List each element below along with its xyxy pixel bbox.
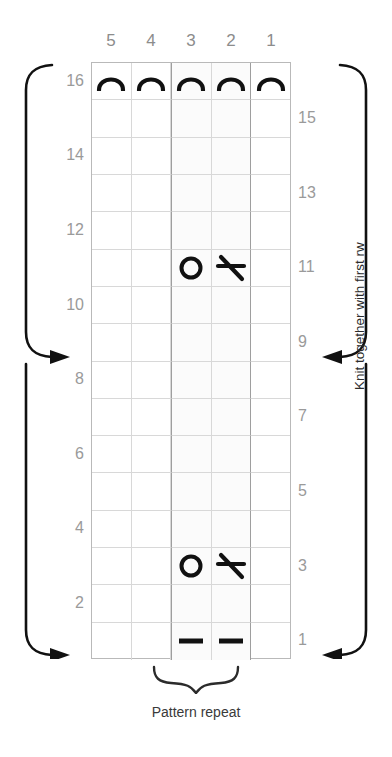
cell-r15-c4 bbox=[132, 100, 172, 137]
cell-r14-c5 bbox=[92, 138, 132, 175]
cell-r7-c3 bbox=[171, 399, 212, 436]
arch-icon bbox=[96, 71, 126, 91]
cell-r9-c2 bbox=[212, 324, 252, 361]
cell-r12-c1 bbox=[251, 212, 290, 249]
cell-r12-c4 bbox=[132, 212, 172, 249]
cell-r14-c1 bbox=[251, 138, 290, 175]
arch-icon bbox=[256, 71, 286, 91]
cell-r5-c2 bbox=[212, 473, 252, 510]
cell-r8-c2 bbox=[212, 362, 252, 399]
cell-r9-c4 bbox=[132, 324, 172, 361]
pattern-repeat-brace bbox=[151, 664, 241, 694]
cell-r9-c5 bbox=[92, 324, 132, 361]
cell-r5-c4 bbox=[132, 473, 172, 510]
cell-r7-c2 bbox=[212, 399, 252, 436]
arch-icon bbox=[216, 71, 246, 91]
column-header-3: 3 bbox=[171, 28, 211, 54]
cell-r8-c4 bbox=[132, 362, 172, 399]
cell-r10-c1 bbox=[251, 287, 290, 324]
cell-r6-c2 bbox=[212, 436, 252, 473]
cell-r4-c3 bbox=[171, 511, 212, 548]
cell-r14-c3 bbox=[171, 138, 212, 175]
slash-icon bbox=[215, 552, 247, 580]
cell-r1-c2 bbox=[212, 623, 252, 660]
cell-r5-c5 bbox=[92, 473, 132, 510]
cell-r1-c4 bbox=[132, 623, 172, 660]
grid-row-5 bbox=[92, 473, 290, 510]
cell-r16-c1 bbox=[251, 63, 290, 100]
cell-r15-c2 bbox=[212, 100, 252, 137]
grid-row-13 bbox=[92, 175, 290, 212]
cell-r4-c5 bbox=[92, 511, 132, 548]
cell-r16-c5 bbox=[92, 63, 132, 100]
cell-r11-c2 bbox=[212, 250, 252, 287]
grid-row-2 bbox=[92, 585, 290, 622]
cell-r7-c4 bbox=[132, 399, 172, 436]
cell-r3-c3 bbox=[171, 548, 212, 585]
cell-r7-c1 bbox=[251, 399, 290, 436]
cell-r10-c4 bbox=[132, 287, 172, 324]
cell-r4-c4 bbox=[132, 511, 172, 548]
cell-r5-c1 bbox=[251, 473, 290, 510]
cell-r7-c5 bbox=[92, 399, 132, 436]
cell-r3-c2 bbox=[212, 548, 252, 585]
cell-r12-c3 bbox=[171, 212, 212, 249]
cell-r15-c1 bbox=[251, 100, 290, 137]
cell-r5-c3 bbox=[171, 473, 212, 510]
grid-row-7 bbox=[92, 399, 290, 436]
cell-r3-c1 bbox=[251, 548, 290, 585]
cell-r8-c1 bbox=[251, 362, 290, 399]
cell-r2-c3 bbox=[171, 585, 212, 622]
grid-row-4 bbox=[92, 511, 290, 548]
cell-r11-c5 bbox=[92, 250, 132, 287]
cell-r6-c5 bbox=[92, 436, 132, 473]
cell-r12-c5 bbox=[92, 212, 132, 249]
cell-r3-c4 bbox=[132, 548, 172, 585]
arch-icon bbox=[136, 71, 166, 91]
cell-r8-c5 bbox=[92, 362, 132, 399]
circle-icon bbox=[178, 553, 204, 579]
cell-r12-c2 bbox=[212, 212, 252, 249]
cell-r9-c3 bbox=[171, 324, 212, 361]
grid-row-1 bbox=[92, 623, 290, 660]
cell-r13-c2 bbox=[212, 175, 252, 212]
column-header-2: 2 bbox=[211, 28, 251, 54]
cell-r15-c3 bbox=[171, 100, 212, 137]
grid-row-12 bbox=[92, 212, 290, 249]
grid-row-16 bbox=[92, 63, 290, 100]
cell-r10-c5 bbox=[92, 287, 132, 324]
column-header-4: 4 bbox=[131, 28, 171, 54]
column-header-1: 1 bbox=[251, 28, 291, 54]
cell-r6-c1 bbox=[251, 436, 290, 473]
cell-r14-c2 bbox=[212, 138, 252, 175]
grid-row-3 bbox=[92, 548, 290, 585]
slash-icon bbox=[215, 254, 247, 282]
knitting-chart: 54321 161412108642 15131197531 Knit toge… bbox=[0, 0, 392, 757]
grid-row-8 bbox=[92, 362, 290, 399]
right-bracket bbox=[318, 62, 378, 659]
grid-row-9 bbox=[92, 324, 290, 361]
cell-r13-c3 bbox=[171, 175, 212, 212]
side-caption: Knit together with first rw bbox=[352, 242, 367, 390]
cell-r14-c4 bbox=[132, 138, 172, 175]
cell-r6-c4 bbox=[132, 436, 172, 473]
dash-icon bbox=[216, 637, 246, 645]
cell-r16-c4 bbox=[132, 63, 172, 100]
cell-r10-c3 bbox=[171, 287, 212, 324]
grid-row-11 bbox=[92, 250, 290, 287]
cell-r13-c4 bbox=[132, 175, 172, 212]
cell-r4-c1 bbox=[251, 511, 290, 548]
cell-r11-c4 bbox=[132, 250, 172, 287]
column-header-5: 5 bbox=[91, 28, 131, 54]
cell-r15-c5 bbox=[92, 100, 132, 137]
cell-r4-c2 bbox=[212, 511, 252, 548]
grid-row-6 bbox=[92, 436, 290, 473]
grid-row-15 bbox=[92, 100, 290, 137]
pattern-repeat-label: Pattern repeat bbox=[0, 704, 392, 720]
cell-r13-c5 bbox=[92, 175, 132, 212]
cell-r9-c1 bbox=[251, 324, 290, 361]
cell-r3-c5 bbox=[92, 548, 132, 585]
grid-row-14 bbox=[92, 138, 290, 175]
column-header-row: 54321 bbox=[91, 28, 291, 54]
cell-r1-c1 bbox=[251, 623, 290, 660]
